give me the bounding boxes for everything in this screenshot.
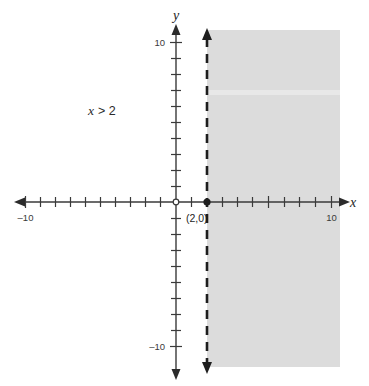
- point-label-2-0: (2,0): [186, 212, 208, 224]
- inequality-expression: > 2: [98, 104, 116, 118]
- y-axis-label: y: [171, 8, 180, 23]
- origin-marker: [173, 199, 179, 205]
- graph-canvas: –10 10 x: [0, 0, 369, 386]
- x-axis-label: x: [349, 195, 357, 210]
- inequality-graph-figure: –10 10 x: [0, 0, 369, 386]
- inequality-annotation: x > 2: [87, 103, 116, 118]
- inequality-variable: x: [87, 103, 94, 118]
- x-tick-label-negative-ten: –10: [18, 212, 34, 223]
- y-axis: 10 –10 y: [149, 8, 182, 380]
- shaded-solution-region: [207, 30, 340, 367]
- plotted-point-2-0: [203, 198, 210, 205]
- y-tick-label-negative-ten: –10: [149, 341, 165, 352]
- y-tick-label-ten: 10: [154, 37, 165, 48]
- x-tick-label-ten: 10: [326, 212, 337, 223]
